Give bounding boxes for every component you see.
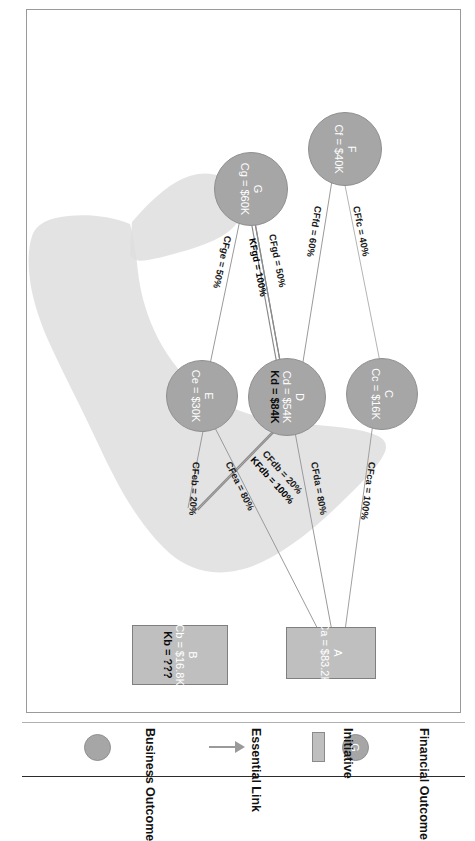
legend-label-financial-outcome: Financial Outcome [417, 728, 431, 840]
business-outcome-swatch-icon [84, 734, 111, 761]
node-E[interactable]: E Ce = $30K [166, 360, 238, 432]
legend-divider-outer [22, 776, 465, 777]
node-C[interactable]: C Cc = $16K [346, 358, 418, 430]
node-B[interactable]: B Cb = $16.8K Kb = ??? [132, 625, 228, 685]
legend-label-business-outcome: Business Outcome [143, 728, 157, 841]
legend-item-business-outcome[interactable] [35, 722, 155, 776]
node-G-id: G [251, 185, 264, 194]
node-C-id: C [382, 390, 395, 398]
node-D-knowledge: Kd = $84K [268, 370, 281, 424]
initiative-swatch-icon [312, 732, 325, 762]
node-E-id: E [202, 392, 215, 399]
arrow-icon [207, 738, 247, 756]
node-F-id: F [345, 146, 358, 153]
legend-label-initiative: Initiative [341, 728, 355, 779]
node-B-knowledge: Kb = ??? [161, 631, 174, 678]
node-C-cost: Cc = $16K [369, 368, 382, 420]
node-F[interactable]: F Cf = $40K [308, 112, 382, 186]
legend-label-essential-link: Essential Link [249, 728, 263, 812]
node-B-cost: Cb = $16.8K [174, 624, 187, 685]
node-D-id: D [293, 393, 306, 401]
node-A[interactable]: A Ca = $83.2K [286, 627, 376, 679]
node-A-cost: Ca = $83.2K [318, 622, 331, 683]
node-D[interactable]: D Cd = $54K Kd = $84K [248, 358, 326, 436]
node-G-cost: Cg = $60K [238, 163, 251, 215]
node-A-id: A [331, 649, 344, 656]
node-D-cost: Cd = $54K [281, 371, 294, 423]
node-E-cost: Ce = $30K [189, 370, 202, 422]
node-F-cost: Cf = $40K [332, 124, 345, 173]
diagram-frame: F Cf = $40K G Cg = $60K C Cc = $16K D Cd… [26, 9, 461, 713]
node-B-id: B [186, 651, 199, 658]
node-G[interactable]: G Cg = $60K [214, 152, 288, 226]
